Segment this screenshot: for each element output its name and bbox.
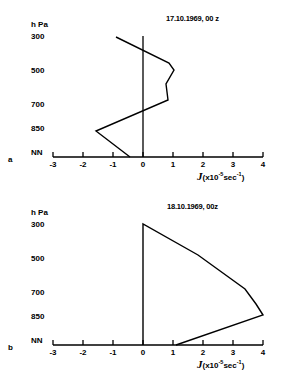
unit-close-a: ) xyxy=(242,173,245,182)
x-tick-label--2-a: -2 xyxy=(75,160,91,169)
x-tick-label-2-a: 2 xyxy=(195,160,211,169)
x-tick-label-0-b: 0 xyxy=(135,348,151,357)
x-tick-label-4-b: 4 xyxy=(255,348,271,357)
unit-open-a: (x10 xyxy=(203,173,219,182)
x-tick-label-3-a: 3 xyxy=(225,160,241,169)
x-axis-unit-label-a: J(x10-5sec-1) xyxy=(197,170,244,182)
x-tick-label--3-a: -3 xyxy=(45,160,61,169)
x-axis-unit-label-b: J(x10-5sec-1) xyxy=(197,358,244,370)
data-line-b xyxy=(143,224,263,345)
unit-mid-a: sec xyxy=(223,173,236,182)
x-tick-label--3-b: -3 xyxy=(45,348,61,357)
chart-panel-a: a 17.10.1969, 00 z h Pa 300 500 700 850 … xyxy=(0,0,282,190)
x-tick-label-4-a: 4 xyxy=(255,160,271,169)
x-tick-label-2-b: 2 xyxy=(195,348,211,357)
x-tick-label-3-b: 3 xyxy=(225,348,241,357)
unit-open-b: (x10 xyxy=(203,361,219,370)
data-line-a xyxy=(96,37,174,157)
x-tick-label--1-a: -1 xyxy=(105,160,121,169)
unit-mid-b: sec xyxy=(223,361,236,370)
x-tick-label-1-b: 1 xyxy=(165,348,181,357)
x-tick-label-0-a: 0 xyxy=(135,160,151,169)
x-tick-label--1-b: -1 xyxy=(105,348,121,357)
unit-close-b: ) xyxy=(242,361,245,370)
x-tick-label--2-b: -2 xyxy=(75,348,91,357)
chart-panel-b: b 18.10.1969, 00z h Pa 300 500 700 850 N… xyxy=(0,191,282,381)
x-tick-label-1-a: 1 xyxy=(165,160,181,169)
